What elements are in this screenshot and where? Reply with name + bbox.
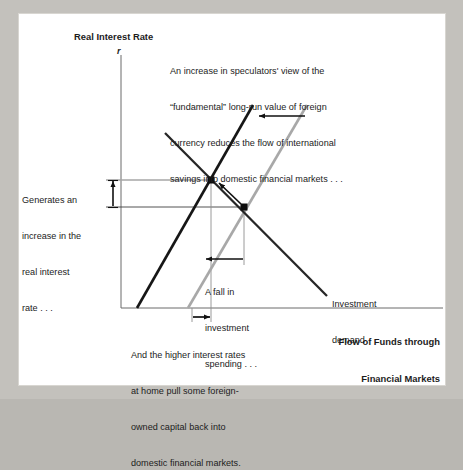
annotation-rate-increase-line2: increase in the: [22, 230, 81, 242]
y-axis-title: Real Interest Rate: [74, 31, 153, 42]
annotation-supply-shift-line3: currency reduces the flow of internation…: [170, 137, 343, 149]
annotation-supply-shift-line1: An increase in speculators' view of the: [170, 65, 343, 77]
annotation-capital-inflow-line1: And the higher interest rates: [131, 349, 245, 361]
annotation-capital-inflow-line3: owned capital back into: [131, 421, 245, 433]
y-axis-variable-label: r: [117, 46, 121, 58]
annotation-investment-fall-line1: A fall in: [205, 286, 257, 298]
annotation-rate-increase-line1: Generates an: [22, 194, 81, 206]
annotation-capital-inflow-line4: domestic financial markets.: [131, 457, 245, 469]
x-axis-title: Flow of Funds through Financial Markets: [300, 311, 440, 410]
x-axis-title-line2: Financial Markets: [300, 373, 440, 385]
annotation-supply-shift: An increase in speculators' view of the …: [170, 41, 343, 209]
x-axis-title-line1: Flow of Funds through: [300, 336, 440, 348]
annotation-capital-inflow: And the higher interest rates at home pu…: [131, 325, 245, 470]
annotation-rate-increase-line3: real interest: [22, 266, 81, 278]
annotation-supply-shift-line2: “fundamental” long-run value of foreign: [170, 101, 343, 113]
annotation-rate-increase-line4: rate . . .: [22, 302, 81, 314]
annotation-supply-shift-line4: savings into domestic financial markets …: [170, 173, 343, 185]
annotation-capital-inflow-line2: at home pull some foreign-: [131, 385, 245, 397]
annotation-rate-increase: Generates an increase in the real intere…: [22, 170, 81, 338]
curve-label-investment-demand-line1: Investment: [332, 298, 376, 310]
